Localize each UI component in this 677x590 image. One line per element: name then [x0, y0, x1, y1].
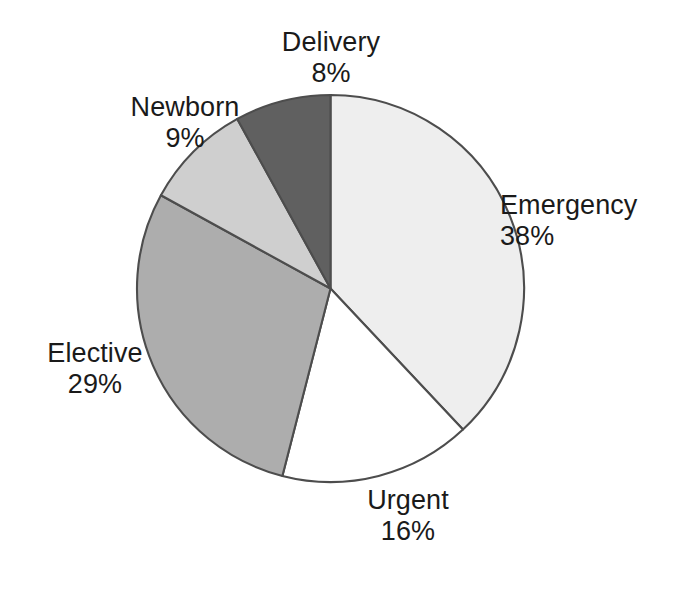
pie-label-delivery-name: Delivery: [231, 27, 431, 58]
pie-label-newborn-value: 9%: [85, 123, 285, 154]
pie-label-elective: Elective 29%: [10, 338, 180, 401]
pie-label-newborn-name: Newborn: [85, 92, 285, 123]
pie-label-urgent-name: Urgent: [333, 485, 483, 516]
pie-label-urgent-value: 16%: [333, 516, 483, 547]
pie-chart: Delivery 8% Newborn 9% Emergency 38% Ele…: [0, 0, 677, 590]
pie-label-emergency: Emergency 38%: [500, 190, 677, 253]
pie-label-delivery: Delivery 8%: [231, 27, 431, 90]
pie-label-elective-value: 29%: [10, 369, 180, 400]
pie-label-emergency-name: Emergency: [500, 190, 677, 221]
pie-label-urgent: Urgent 16%: [333, 485, 483, 548]
pie-label-delivery-value: 8%: [231, 58, 431, 89]
pie-label-emergency-value: 38%: [500, 221, 677, 252]
pie-label-elective-name: Elective: [10, 338, 180, 369]
pie-label-newborn: Newborn 9%: [85, 92, 285, 155]
